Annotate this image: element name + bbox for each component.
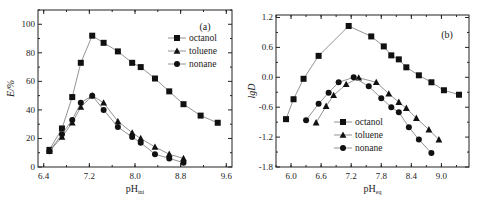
square-marker [441, 87, 447, 93]
x-tick-label: 8.8 [175, 171, 187, 181]
square-marker [101, 40, 107, 46]
square-marker [346, 23, 352, 29]
legend-label-nonane: nonane [189, 59, 216, 69]
triangle-marker [152, 143, 159, 149]
panel-b-chart: 6.06.67.27.88.49.0-1.8-1.2-0.60.00.61.2p… [246, 12, 469, 195]
panel-label: (b) [441, 29, 453, 41]
square-marker [166, 88, 172, 94]
square-marker [416, 72, 422, 78]
square-marker [181, 101, 187, 107]
circle-marker [129, 134, 135, 140]
circle-marker [428, 150, 434, 156]
y-tick-label: 40 [26, 105, 36, 115]
x-tick-label: 9.0 [436, 171, 448, 181]
x-tick-label: 6.0 [285, 171, 297, 181]
series-line [286, 26, 459, 119]
square-marker [129, 60, 135, 66]
square-marker [428, 79, 434, 85]
circle-marker [138, 140, 144, 146]
x-tick-label: 6.4 [38, 171, 50, 181]
triangle-marker [313, 119, 320, 125]
triangle-marker [395, 99, 402, 105]
circle-marker [69, 117, 75, 123]
square-marker [456, 92, 462, 98]
series-octanol [283, 23, 462, 122]
x-tick-label: 7.2 [84, 171, 95, 181]
y-axis-label: E/% [5, 80, 16, 98]
square-marker [291, 96, 297, 102]
square-marker [138, 64, 144, 70]
legend: octanoltoluenenonane [334, 117, 383, 153]
circle-marker [406, 124, 412, 130]
square-marker [78, 60, 84, 66]
square-marker [381, 43, 387, 49]
figure: 6.47.28.08.89.6020406080100pHiniE/%(a)oc… [0, 0, 480, 205]
square-marker [115, 48, 121, 54]
square-marker [368, 33, 374, 39]
y-tick-label: 80 [26, 48, 36, 58]
triangle-marker [323, 103, 330, 109]
legend-label-octanol: octanol [189, 33, 217, 43]
square-marker [152, 76, 158, 82]
circle-marker [416, 137, 422, 143]
circle-marker [366, 83, 372, 89]
x-tick-label: 6.6 [315, 171, 327, 181]
circle-marker [101, 107, 107, 113]
legend-label-toluene: toluene [189, 46, 217, 56]
panel-label: (a) [199, 21, 210, 33]
square-marker [396, 56, 402, 62]
circle-marker [46, 148, 52, 154]
square-marker [215, 120, 221, 126]
square-marker [388, 52, 394, 58]
circle-marker [316, 101, 322, 107]
legend-label-toluene: toluene [355, 130, 383, 140]
circle-marker [89, 93, 95, 99]
triangle-marker [343, 81, 350, 87]
y-tick-label: 0.0 [262, 72, 274, 82]
circle-marker [115, 124, 121, 130]
x-tick-label: 7.2 [346, 171, 357, 181]
y-tick-label: 0.6 [262, 42, 274, 52]
legend-square-icon [340, 119, 346, 125]
x-tick-label: 7.8 [376, 171, 388, 181]
square-marker [301, 76, 307, 82]
triangle-marker [100, 99, 107, 105]
y-tick-label: 1.2 [262, 12, 273, 22]
square-marker [283, 116, 289, 122]
circle-marker [336, 79, 342, 85]
circle-marker [396, 109, 402, 115]
y-tick-label: 60 [26, 76, 36, 86]
x-tick-label: 8.0 [129, 171, 141, 181]
legend-label-octanol: octanol [355, 117, 383, 127]
legend-square-icon [174, 35, 180, 41]
circle-marker [378, 95, 384, 101]
circle-marker [166, 155, 172, 161]
y-tick-label: -1.8 [259, 162, 274, 172]
legend: octanoltoluenenonane [168, 33, 217, 69]
circle-marker [326, 90, 332, 96]
panel-a-chart: 6.47.28.08.89.6020406080100pHiniE/%(a)oc… [5, 10, 232, 195]
y-axis-label: lgD [246, 83, 257, 99]
square-marker [316, 53, 322, 59]
legend-circle-icon [340, 145, 346, 151]
circle-marker [351, 74, 357, 80]
legend-label-nonane: nonane [355, 143, 382, 153]
circle-marker [388, 104, 394, 110]
circle-marker [181, 160, 187, 166]
square-marker [69, 94, 75, 100]
legend-circle-icon [174, 61, 180, 67]
circle-marker [78, 100, 84, 106]
square-marker [403, 64, 409, 70]
square-marker [59, 125, 65, 131]
x-tick-label: 8.4 [406, 171, 418, 181]
circle-marker [303, 117, 309, 123]
x-axis-label: pHini [126, 183, 145, 195]
y-tick-label: 20 [26, 133, 36, 143]
y-tick-label: 0 [31, 162, 36, 172]
square-marker [89, 33, 95, 39]
circle-marker [152, 151, 158, 157]
x-axis-label: pHeq [364, 183, 382, 195]
x-tick-label: 9.6 [221, 171, 233, 181]
square-marker [198, 113, 204, 119]
y-tick-label: -1.2 [259, 132, 273, 142]
